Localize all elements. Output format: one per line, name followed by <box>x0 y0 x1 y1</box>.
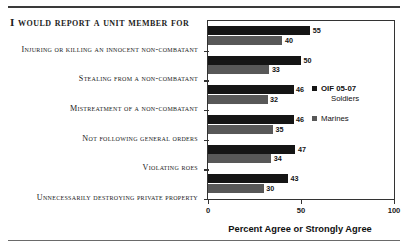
bar-group: 5540 <box>208 21 394 51</box>
bar-value-label: 46 <box>296 85 304 94</box>
bar-marines <box>208 95 268 104</box>
bar-marines <box>208 65 269 74</box>
x-axis-tick-label: 100 <box>388 206 401 215</box>
bar-value-label: 46 <box>296 115 304 124</box>
category-label: INJURING OR KILLING AN INNOCENT NON-COMB… <box>0 45 198 54</box>
category-label: UNNECESSARILY DESTROYING PRIVATE PROPERT… <box>0 193 198 202</box>
category-label: NOT FOLLOWING GENERAL ORDERS <box>0 134 198 143</box>
bar-value-label: 35 <box>276 125 284 134</box>
bar-value-label: 47 <box>298 145 306 154</box>
category-label-column: INJURING OR KILLING AN INNOCENT NON-COMB… <box>0 20 203 198</box>
x-axis-title: Percent Agree or Strongly Agree <box>207 224 393 234</box>
bar-soldiers <box>208 26 310 35</box>
legend-item: OIF 05-07Soldiers <box>312 84 398 104</box>
bar-marines <box>208 184 264 193</box>
legend-label: Marines <box>321 114 398 124</box>
bar-value-label: 55 <box>313 26 321 35</box>
bar-value-label: 40 <box>285 36 293 45</box>
category-label: VIOLATING ROES <box>0 163 198 172</box>
bar-soldiers <box>208 85 294 94</box>
bar-marines <box>208 125 273 134</box>
bar-marines <box>208 154 271 163</box>
bar-soldiers <box>208 145 295 154</box>
x-axis-tick <box>394 199 395 204</box>
top-rule <box>8 6 400 8</box>
bar-value-label: 50 <box>304 56 312 65</box>
bar-soldiers <box>208 115 294 124</box>
legend-item: Marines <box>312 114 398 124</box>
x-axis-tick <box>208 199 209 204</box>
category-label: STEALING FROM A NON-COMBATANT <box>0 74 198 83</box>
legend-label-line2: Soldiers <box>321 94 398 104</box>
legend-label: OIF 05-07 <box>321 84 398 94</box>
x-axis-tick-label: 0 <box>206 206 210 215</box>
bar-value-label: 34 <box>274 154 282 163</box>
category-label: MISTREATMENT OF A NON-COMBATANT <box>0 104 198 113</box>
x-axis-tick-label: 50 <box>297 206 305 215</box>
bar-group: 4330 <box>208 169 394 199</box>
bar-group: 4734 <box>208 140 394 170</box>
bottom-rule <box>8 240 400 241</box>
x-axis-tick <box>301 199 302 204</box>
legend-swatch-icon <box>312 116 317 121</box>
bar-value-label: 30 <box>266 184 274 193</box>
bar-value-label: 43 <box>290 174 298 183</box>
legend-swatch-icon <box>312 86 317 91</box>
bar-soldiers <box>208 56 301 65</box>
bar-value-label: 32 <box>270 95 278 104</box>
bar-soldiers <box>208 174 288 183</box>
bar-group: 5033 <box>208 51 394 81</box>
bar-marines <box>208 36 282 45</box>
bar-value-label: 33 <box>272 65 280 74</box>
chart-legend: OIF 05-07SoldiersMarines <box>312 84 398 125</box>
